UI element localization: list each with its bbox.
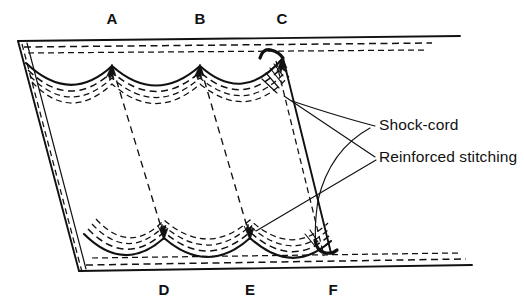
label-letter-b: B [195, 10, 206, 27]
seam-line-b-to-e [201, 69, 250, 237]
letter-labels-bottom: D E F [159, 281, 338, 298]
figure-canvas: A B C D E F Shock-cord Reinforced stitch… [0, 0, 524, 308]
callout-label-shock-cord: Shock-cord [379, 116, 458, 133]
top-scalloped-edge [26, 58, 289, 104]
top-scallop-stitch-row-3 [32, 76, 289, 104]
right-edge-stitch-row [276, 61, 324, 256]
top-edge-stitch-row-1 [24, 43, 432, 47]
left-edge-line-inner [27, 43, 86, 269]
technical-diagram: A B C D E F Shock-cord Reinforced stitch… [0, 0, 524, 308]
bottom-scallop-stitch-row-3 [96, 219, 328, 240]
shock-cord-channel-hatch-4 [262, 79, 277, 93]
bottom-scallop-stitch-row-2 [92, 224, 329, 246]
left-edge-stitch-row [22, 44, 82, 272]
leader-line-shock-cord [292, 101, 375, 126]
callout-labels: Shock-cord Reinforced stitching [379, 116, 517, 165]
callout-leader-lines [256, 96, 376, 243]
bottom-edge-line [79, 265, 472, 271]
top-edge-stitch-row-2 [28, 50, 424, 53]
label-letter-c: C [277, 10, 288, 27]
left-edge-line-outer [18, 41, 79, 271]
label-letter-a: A [107, 10, 118, 27]
top-scallop-stitch-row-1 [28, 64, 285, 92]
top-scallop-curve [26, 58, 283, 86]
label-letter-f: F [328, 281, 337, 298]
tack-peak-b [194, 64, 204, 80]
bottom-scalloped-edge [84, 219, 331, 258]
tack-peak-e [244, 224, 254, 240]
bottom-scallop-curve [84, 234, 331, 258]
callout-label-reinforced-stitching: Reinforced stitching [379, 148, 517, 165]
tack-peak-a [106, 64, 116, 80]
bottom-edge-stitch-row-1 [86, 259, 466, 265]
bottom-scallop-stitch-row-1 [88, 229, 330, 252]
label-letter-d: D [159, 281, 170, 298]
right-edge-line [283, 58, 331, 253]
leader-line-stitching-upper [284, 96, 375, 157]
letter-labels-top: A B C [107, 10, 288, 27]
label-letter-e: E [245, 281, 255, 298]
top-edge-line [18, 36, 460, 41]
